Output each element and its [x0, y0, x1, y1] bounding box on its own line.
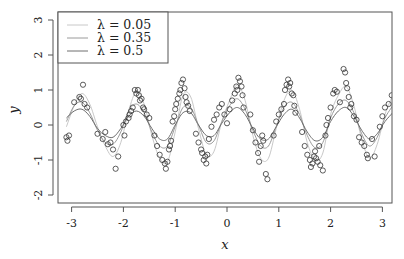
data-point — [193, 131, 198, 136]
x-tick-label: 0 — [224, 217, 231, 230]
data-point — [175, 96, 180, 101]
data-point — [80, 82, 85, 87]
data-point — [209, 124, 214, 129]
data-point — [224, 121, 229, 126]
y-axis-title: y — [6, 106, 21, 115]
data-point — [204, 161, 209, 166]
legend-label: λ = 0.5 — [97, 43, 143, 58]
y-tick-label: -2 — [32, 190, 45, 201]
data-point — [305, 152, 310, 157]
data-point — [234, 84, 239, 89]
data-point — [281, 101, 286, 106]
data-point — [196, 140, 201, 145]
x-tick-label: -1 — [170, 217, 181, 230]
data-point — [170, 119, 175, 124]
data-point — [219, 101, 224, 106]
data-point — [110, 147, 115, 152]
data-point — [199, 147, 204, 152]
y-tick-label: 3 — [32, 17, 45, 24]
data-point — [116, 154, 121, 159]
data-point — [211, 117, 216, 122]
data-point — [320, 168, 325, 173]
data-point — [263, 171, 268, 176]
y-tick-label: -1 — [32, 155, 45, 166]
data-point — [265, 177, 270, 182]
data-point — [302, 143, 307, 148]
data-point — [177, 91, 182, 96]
data-point — [232, 91, 237, 96]
data-point — [217, 105, 222, 110]
x-tick-label: 2 — [327, 217, 334, 230]
x-axis-title: x — [221, 237, 229, 252]
x-axis: -3-2-10123 — [66, 207, 386, 230]
scatter-points — [64, 66, 395, 181]
data-point — [300, 129, 305, 134]
y-tick-label: 2 — [32, 52, 45, 59]
chart-svg: -3-2-10123 -2-10123 x y λ = 0.05λ = 0.35… — [0, 0, 404, 259]
y-tick-label: 0 — [32, 122, 45, 129]
data-point — [346, 94, 351, 99]
data-point — [113, 166, 118, 171]
data-point — [260, 133, 265, 138]
data-point — [163, 166, 168, 171]
data-point — [103, 129, 108, 134]
data-point — [172, 114, 177, 119]
data-point — [214, 112, 219, 117]
data-point — [65, 138, 70, 143]
data-point — [318, 163, 323, 168]
y-tick-label: 1 — [32, 87, 45, 94]
data-point — [257, 159, 262, 164]
x-tick-label: -3 — [66, 217, 77, 230]
x-tick-label: 3 — [379, 217, 386, 230]
data-point — [174, 101, 179, 106]
legend: λ = 0.05λ = 0.35λ = 0.5 — [58, 12, 168, 63]
data-point — [173, 107, 178, 112]
data-point — [200, 150, 205, 155]
x-tick-label: 1 — [275, 217, 282, 230]
y-axis: -2-10123 — [32, 17, 53, 201]
data-point — [183, 94, 188, 99]
data-point — [344, 80, 349, 85]
x-tick-label: -2 — [118, 217, 129, 230]
data-point — [312, 149, 317, 154]
data-point — [372, 154, 377, 159]
